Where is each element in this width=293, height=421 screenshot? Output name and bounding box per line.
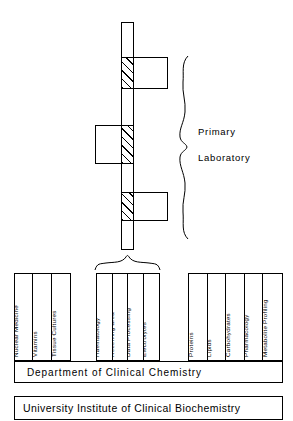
unit-label-data-processing: Data Processing <box>128 308 132 357</box>
unit-label-pharmacology: Pharmacology <box>245 314 251 357</box>
unit-label-nuclear-medicine: Nuclear Medicine <box>15 305 20 357</box>
unit-group-center: Haematology Receiving area Data Processi… <box>96 273 160 361</box>
service-core-middle-hatch <box>121 125 134 164</box>
unit-cell-haematology[interactable]: Haematology <box>97 274 113 360</box>
unit-cell-carbohydrates[interactable]: Carbohydrates <box>226 274 245 360</box>
unit-label-text: Data Processing <box>128 308 131 357</box>
unit-cell-lipids[interactable]: Lipids <box>208 274 227 360</box>
unit-label-text: Proteins <box>189 332 194 357</box>
unit-label-text: Haematology <box>97 318 100 357</box>
institute-banner: University Institute of Clinical Biochem… <box>14 396 283 420</box>
unit-cell-hormones-vitamins[interactable]: Hormones & Vitamins <box>33 274 51 360</box>
unit-label-text: Nuclear Medicine <box>15 305 19 357</box>
unit-label-lipids: Lipids <box>208 339 214 357</box>
unit-cell-metabolite-profiling[interactable]: Metabolite Profiling <box>263 274 282 360</box>
unit-label-text-2: Tissue Cultures <box>52 310 57 357</box>
institute-banner-text: University Institute of Clinical Biochem… <box>15 402 240 414</box>
department-banner: Department of Clinical Chemistry <box>14 361 283 383</box>
unit-group-right: Proteins Lipids Carbohydrates Pharmacolo… <box>188 273 283 361</box>
primary-laboratory-caption-line1: Primary <box>198 127 250 137</box>
unit-cell-pharmacology[interactable]: Pharmacology <box>245 274 264 360</box>
lab-room-bottom-right <box>133 192 168 221</box>
unit-label-metabolite-profiling: Metabolite Profiling <box>263 299 269 357</box>
unit-label-text: Receiving area <box>113 312 116 357</box>
unit-cell-receiving-area[interactable]: Receiving area <box>113 274 129 360</box>
unit-label-enzymes-tissue-cultures: Enzymes & Tissue Cultures <box>52 310 58 357</box>
unit-cell-enzymes-tissue-cultures[interactable]: Enzymes & Tissue Cultures <box>52 274 70 360</box>
department-banner-text: Department of Clinical Chemistry <box>15 367 202 378</box>
unit-label-text: Metabolite Profiling <box>263 299 268 357</box>
unit-cell-nuclear-medicine[interactable]: Nuclear Medicine <box>15 274 33 360</box>
unit-label-carbohydrates: Carbohydrates <box>226 313 232 357</box>
unit-label-hormones-vitamins: Hormones & Vitamins <box>33 320 38 357</box>
lab-room-top-right <box>133 57 168 89</box>
lab-room-middle-left <box>95 125 122 164</box>
primary-laboratory-caption-line2: Laboratory <box>198 153 250 163</box>
organization-diagram: Primary Laboratory Nuclear Medicine Horm… <box>0 0 293 421</box>
unit-label-receiving-area: Receiving area <box>113 312 117 357</box>
unit-label-text: Lipids <box>208 339 213 357</box>
unit-cell-data-processing[interactable]: Data Processing <box>128 274 144 360</box>
center-group-brace <box>94 251 164 271</box>
unit-label-text-2: Vitamins <box>33 331 37 357</box>
unit-label-text: Pharmacology <box>245 314 250 357</box>
unit-label-text: Carbohydrates <box>226 313 231 357</box>
unit-label-electrolytes: Electrolytes <box>144 322 148 357</box>
unit-group-left: Nuclear Medicine Hormones & Vitamins Enz… <box>14 273 71 361</box>
unit-cell-electrolytes[interactable]: Electrolytes <box>144 274 159 360</box>
primary-laboratory-caption: Primary Laboratory <box>198 127 250 164</box>
unit-label-text: Electrolytes <box>144 322 148 357</box>
unit-label-haematology: Haematology <box>97 318 101 357</box>
unit-cell-proteins[interactable]: Proteins <box>189 274 208 360</box>
unit-label-proteins: Proteins <box>189 332 195 357</box>
